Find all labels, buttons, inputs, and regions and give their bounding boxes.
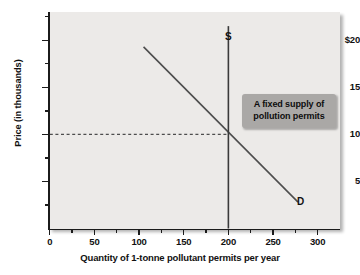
y-axis-tick-minor [45,204,50,205]
y-axis-tick-minor [45,16,50,17]
y-axis-line [48,12,50,230]
x-axis-tick-major [228,229,229,235]
fixed-supply-callout: A fixed supply of pollution permits [242,94,336,128]
x-axis-tick-minor [116,229,117,233]
y-axis-tick-major [42,181,49,182]
y-axis-tick-minor [45,157,50,158]
y-axis-tick-label: 15 [322,81,360,92]
callout-line-1: A fixed supply of [242,99,336,111]
x-axis-line [49,229,340,231]
x-axis-tick-label: 0 [30,236,70,247]
y-axis-tick-major [42,134,49,135]
callout-line-2: pollution permits [242,111,336,123]
x-axis-tick-minor [205,229,206,233]
x-axis-tick-label: 200 [208,236,248,247]
x-axis-tick-major [317,229,318,235]
y-axis-tick-major [42,40,49,41]
demand-curve-label: D [297,196,304,207]
y-axis-tick-label: 10 [322,128,360,139]
x-axis-tick-major [183,229,184,235]
x-axis-title: Quantity of 1-tonne pollutant permits pe… [0,252,360,263]
y-axis-tick-minor [45,110,50,111]
x-axis-tick-minor [71,229,72,233]
x-axis-tick-major [272,229,273,235]
y-axis-tick-label: $20 [322,34,360,45]
x-axis-tick-label: 150 [164,236,204,247]
y-axis-tick-major [42,87,49,88]
x-axis-tick-minor [161,229,162,233]
chart-figure: S D A fixed supply of pollution permits … [0,0,360,275]
y-axis-title: Price (in thousands) [13,43,23,163]
x-axis-tick-minor [250,229,251,233]
x-axis-tick-minor [295,229,296,233]
y-axis-tick-minor [45,63,50,64]
x-axis-tick-major [49,229,50,235]
x-axis-tick-label: 100 [119,236,159,247]
x-axis-tick-label: 50 [74,236,114,247]
x-axis-tick-label: 250 [253,236,293,247]
x-axis-tick-major [138,229,139,235]
y-axis-tick-label: 5 [322,175,360,186]
supply-curve-label: S [225,31,232,42]
x-axis-tick-label: 300 [298,236,338,247]
x-axis-tick-major [94,229,95,235]
